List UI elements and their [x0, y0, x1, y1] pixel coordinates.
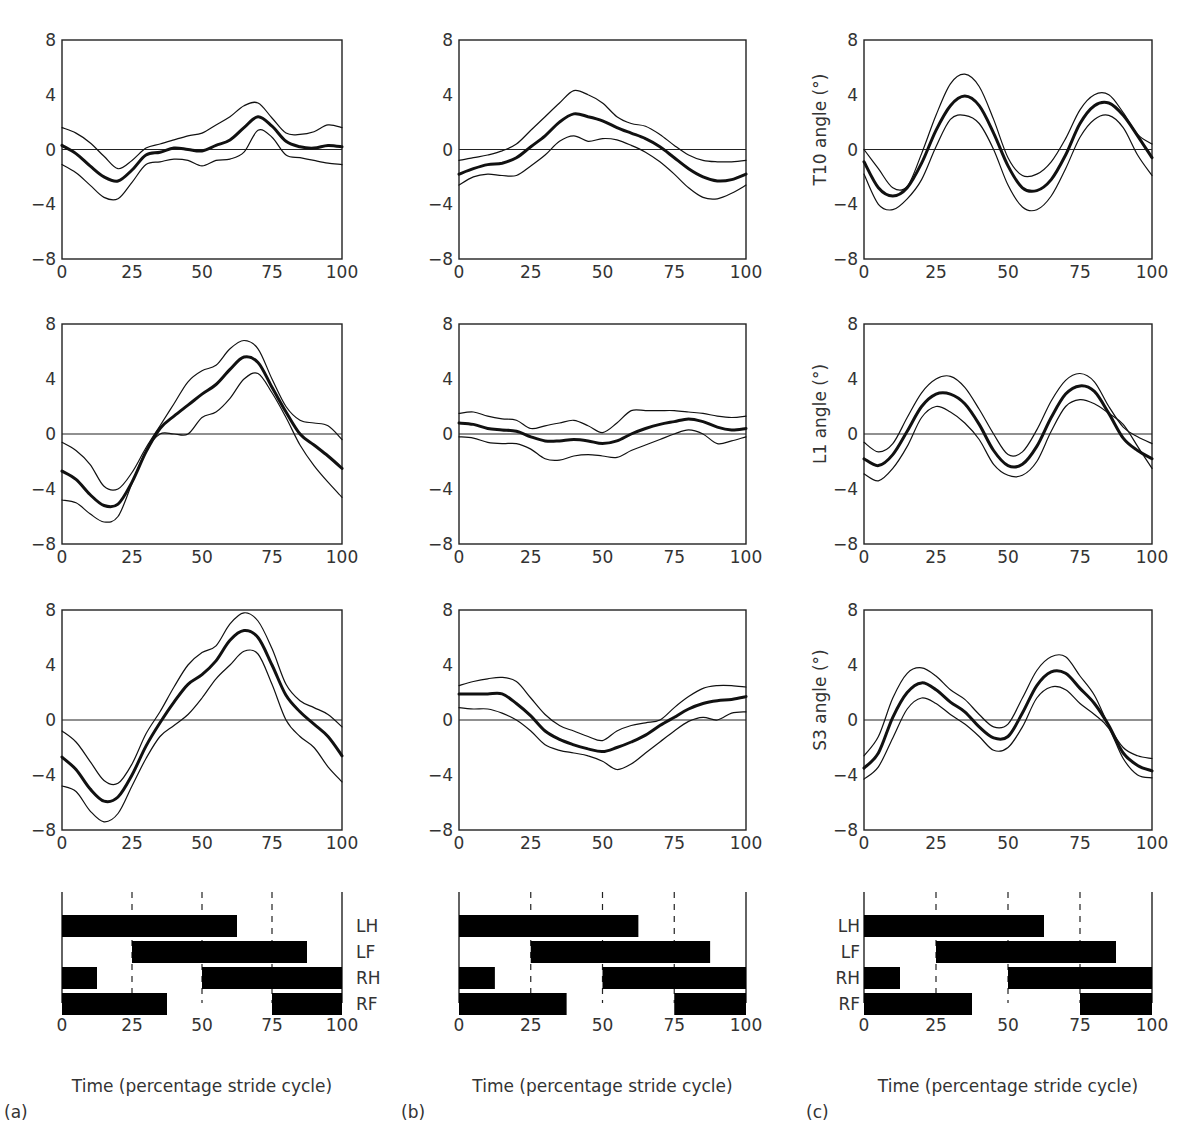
chart-b2: 840−4−80255075100: [428, 314, 762, 567]
y-tick-label: −4: [428, 479, 453, 499]
x-tick-label: 50: [592, 1015, 614, 1035]
x-tick-label: 0: [57, 262, 68, 282]
limb-label-lh: LH: [356, 916, 378, 936]
stance-bar-lf: [936, 941, 1116, 963]
x-tick-label: 25: [121, 833, 143, 853]
x-tick-label: 100: [1136, 547, 1168, 567]
stance-bar-rh: [1008, 967, 1152, 989]
x-tick-label: 25: [121, 262, 143, 282]
x-tick-label: 100: [730, 1015, 762, 1035]
series-mean-line: [864, 96, 1152, 196]
x-tick-label: 75: [1069, 833, 1091, 853]
y-tick-label: 0: [847, 140, 858, 160]
x-tick-label: 25: [121, 547, 143, 567]
x-tick-label: 0: [57, 833, 68, 853]
stance-bar-rf: [272, 993, 342, 1015]
x-tick-label: 0: [454, 262, 465, 282]
y-tick-label: 8: [45, 314, 56, 334]
series-mean-line: [62, 631, 342, 802]
stance-bar-rh: [62, 967, 97, 989]
stance-bar-rf: [674, 993, 746, 1015]
y-tick-label: −4: [428, 194, 453, 214]
y-tick-label: −8: [833, 249, 858, 269]
x-tick-label: 0: [57, 1015, 68, 1035]
x-tick-label: 75: [261, 262, 283, 282]
y-tick-label: 4: [45, 85, 56, 105]
chart-gait-b: 0255075100Time (percentage stride cycle)…: [401, 892, 762, 1122]
y-tick-label: −8: [428, 249, 453, 269]
y-tick-label: 0: [442, 424, 453, 444]
stance-bar-rf: [864, 993, 972, 1015]
y-tick-label: −4: [428, 765, 453, 785]
y-tick-label: 4: [442, 369, 453, 389]
y-tick-label: −8: [428, 820, 453, 840]
y-tick-label: 8: [442, 600, 453, 620]
y-tick-label: 0: [847, 424, 858, 444]
chart-gait-a: LHLFRHRF0255075100Time (percentage strid…: [4, 892, 381, 1122]
stance-bar-rh: [202, 967, 342, 989]
x-axis-label: Time (percentage stride cycle): [471, 1076, 732, 1096]
y-tick-label: −4: [833, 765, 858, 785]
stance-bar-rf: [62, 993, 167, 1015]
x-tick-label: 100: [1136, 1015, 1168, 1035]
y-tick-label: 0: [442, 140, 453, 160]
y-tick-label: 8: [847, 314, 858, 334]
limb-label-rf: RF: [356, 994, 378, 1014]
y-axis-label: L1 angle (°): [810, 364, 830, 464]
series-mean-line: [459, 693, 746, 751]
x-tick-label: 50: [191, 547, 213, 567]
series-upper-line: [864, 655, 1152, 759]
chart-c2: 840−4−80255075100L1 angle (°): [810, 314, 1168, 567]
series-upper-line: [459, 90, 746, 162]
x-tick-label: 0: [859, 833, 870, 853]
panel-label: (b): [401, 1102, 425, 1122]
y-tick-label: −8: [428, 534, 453, 554]
stance-bar-lf: [531, 941, 710, 963]
series-lower-line: [62, 130, 342, 200]
x-tick-label: 75: [261, 1015, 283, 1035]
y-tick-label: −4: [31, 765, 56, 785]
x-tick-label: 0: [859, 262, 870, 282]
series-upper-line: [459, 677, 746, 740]
x-tick-label: 0: [454, 547, 465, 567]
series-lower-line: [459, 708, 746, 770]
y-tick-label: 8: [45, 600, 56, 620]
x-tick-label: 75: [1069, 1015, 1091, 1035]
x-tick-label: 50: [997, 1015, 1019, 1035]
y-axis-label: S3 angle (°): [810, 649, 830, 750]
stance-bar-rh: [459, 967, 495, 989]
x-tick-label: 25: [925, 833, 947, 853]
x-tick-label: 100: [730, 547, 762, 567]
y-tick-label: 0: [442, 710, 453, 730]
x-tick-label: 25: [520, 833, 542, 853]
x-tick-label: 75: [261, 833, 283, 853]
y-tick-label: 8: [847, 600, 858, 620]
x-tick-label: 100: [326, 547, 358, 567]
panel-label: (a): [4, 1102, 28, 1122]
y-tick-label: −8: [31, 820, 56, 840]
y-tick-label: −8: [31, 249, 56, 269]
series-upper-line: [864, 74, 1152, 190]
stance-bar-rh: [603, 967, 747, 989]
chart-a2: 840−4−80255075100: [31, 314, 358, 567]
x-tick-label: 75: [1069, 547, 1091, 567]
chart-gait-c: LHLFRHRF0255075100Time (percentage strid…: [806, 892, 1168, 1122]
x-tick-label: 50: [191, 262, 213, 282]
x-tick-label: 25: [925, 262, 947, 282]
x-tick-label: 50: [592, 547, 614, 567]
y-tick-label: −4: [31, 194, 56, 214]
x-tick-label: 100: [326, 833, 358, 853]
chart-c3: 840−4−80255075100S3 angle (°): [810, 600, 1168, 853]
x-tick-label: 50: [997, 833, 1019, 853]
x-tick-label: 50: [997, 547, 1019, 567]
y-tick-label: 0: [45, 140, 56, 160]
x-tick-label: 75: [663, 547, 685, 567]
y-tick-label: 8: [442, 30, 453, 50]
series-mean-line: [62, 357, 342, 507]
series-upper-line: [62, 341, 342, 491]
x-tick-label: 100: [326, 1015, 358, 1035]
x-tick-label: 50: [592, 833, 614, 853]
y-tick-label: 4: [847, 369, 858, 389]
x-tick-label: 0: [57, 547, 68, 567]
x-tick-label: 100: [1136, 262, 1168, 282]
